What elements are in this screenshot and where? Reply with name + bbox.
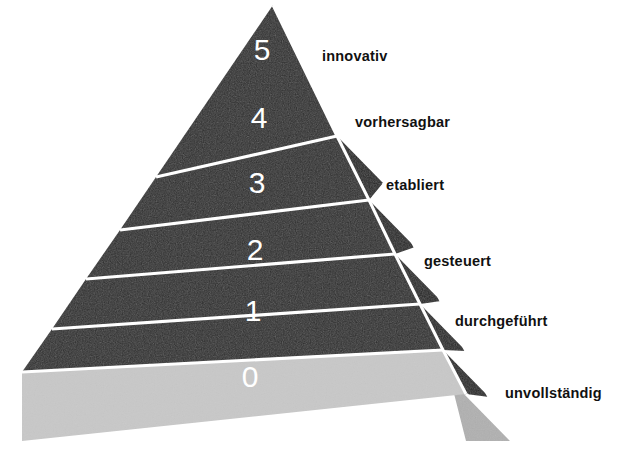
maturity-pyramid-figure: 5 4 3 2 1 0 innovativ vorhersagbar etabl…	[0, 0, 628, 466]
level-label-gesteuert: gesteuert	[424, 253, 491, 269]
level-label-vorhersagbar: vorhersagbar	[355, 114, 450, 130]
level-number-4: 4	[251, 101, 268, 134]
level-label-unvollstaendig: unvollständig	[505, 385, 602, 401]
level-label-durchgefuehrt: durchgeführt	[455, 313, 548, 329]
level-label-innovativ: innovativ	[322, 48, 387, 64]
level-number-1: 1	[245, 294, 262, 327]
level-number-5: 5	[254, 33, 271, 66]
level-number-2: 2	[247, 233, 264, 266]
level-number-3: 3	[249, 166, 266, 199]
level-label-etabliert: etabliert	[386, 177, 444, 193]
level-number-0: 0	[242, 360, 259, 393]
